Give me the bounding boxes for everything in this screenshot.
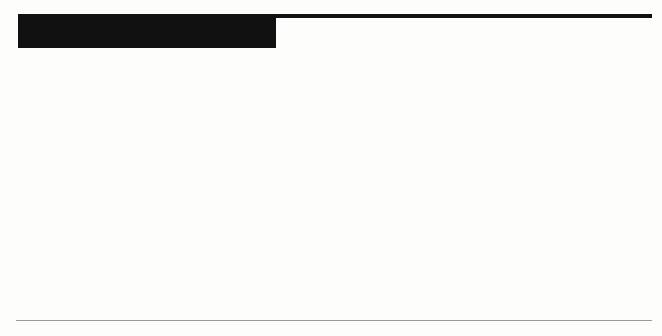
chart-page [0, 0, 662, 336]
page-title [28, 19, 278, 46]
chart-canvas [0, 48, 662, 320]
footer-rule [16, 320, 652, 321]
